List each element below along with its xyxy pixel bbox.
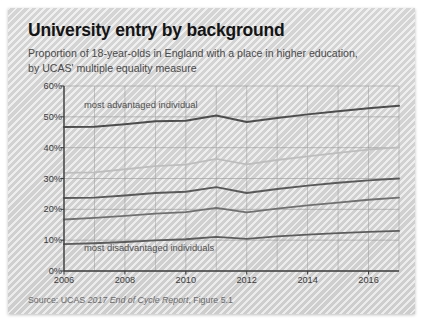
x-axis-tick-label: 2010 [176,275,196,285]
x-axis-tick-label: 2006 [54,275,74,285]
line-chart-svg [28,82,403,287]
chart-plot-area: 0%10%20%30%40%50%60% 2006200820102012201… [28,82,403,287]
x-axis-tick-label: 2012 [236,275,256,285]
x-axis-tick-label: 2016 [358,275,378,285]
annotation-most-advantaged: most advantaged individual [84,99,198,110]
source-report-title: 2017 End of Cycle Report [88,295,189,305]
source-suffix: , Figure 5.1 [188,295,233,305]
chart-subtitle: Proportion of 18-year-olds in England wi… [28,46,358,75]
chart-card: University entry by background Proportio… [8,8,415,314]
source-note: Source: UCAS 2017 End of Cycle Report, F… [28,295,233,305]
x-axis-labels: 200620082010201220142016 [28,275,403,291]
page-title: University entry by background [28,20,285,41]
x-axis-tick-label: 2014 [297,275,317,285]
x-axis-tick-label: 2008 [115,275,135,285]
annotation-most-disadvantaged: most disadvantaged individuals [84,242,214,253]
source-prefix: Source: UCAS [28,295,88,305]
